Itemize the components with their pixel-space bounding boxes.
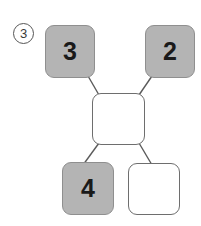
node-top-right[interactable]: 2: [145, 25, 195, 78]
node-bottom-right[interactable]: [128, 163, 180, 215]
node-bottom-left[interactable]: 4: [62, 162, 114, 215]
node-top-right-label: 2: [163, 39, 177, 64]
node-bottom-left-label: 4: [81, 176, 95, 201]
puzzle-figure: 3 3 2 4: [0, 0, 201, 226]
connector-topleft-center: [88, 76, 99, 95]
node-center[interactable]: [92, 93, 145, 145]
connector-topright-center: [139, 76, 152, 95]
node-top-left[interactable]: 3: [45, 25, 95, 78]
connector-center-bottomright: [139, 143, 152, 165]
node-top-left-label: 3: [63, 39, 77, 64]
